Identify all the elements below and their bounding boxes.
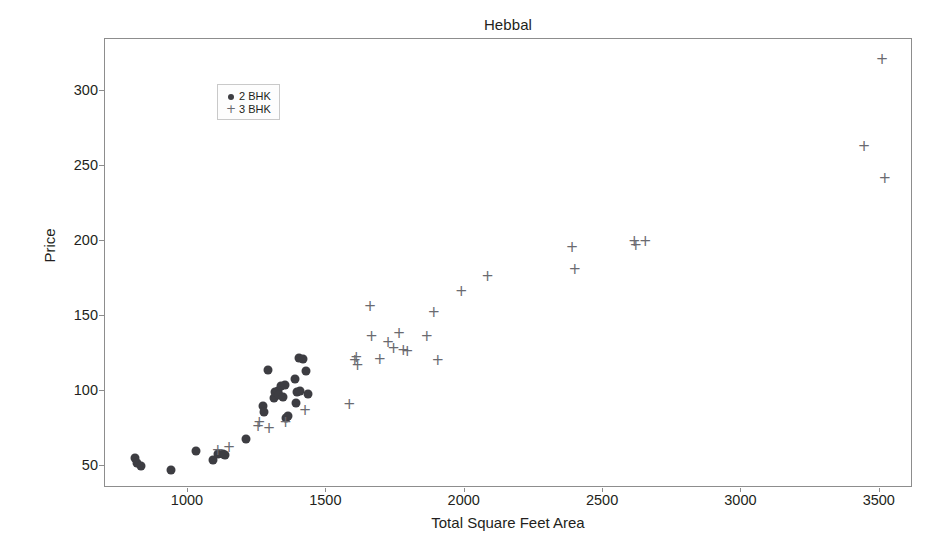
data-point-3bhk bbox=[279, 418, 290, 429]
x-axis-label: Total Square Feet Area bbox=[104, 514, 912, 531]
y-tick-mark bbox=[99, 465, 104, 466]
data-point-2bhk bbox=[298, 355, 307, 364]
data-point-2bhk bbox=[290, 374, 299, 383]
data-point-2bhk bbox=[242, 434, 251, 443]
x-tick-label: 1500 bbox=[309, 492, 341, 508]
y-tick-mark bbox=[99, 390, 104, 391]
data-point-3bhk bbox=[569, 265, 580, 276]
legend-item-3bhk[interactable]: +3 BHK bbox=[223, 102, 271, 115]
legend-label: 3 BHK bbox=[239, 103, 271, 115]
data-point-3bhk bbox=[263, 424, 274, 435]
chart-title: Hebbal bbox=[104, 16, 912, 33]
y-tick-label: 300 bbox=[58, 82, 98, 98]
y-tick-label: 150 bbox=[58, 307, 98, 323]
y-axis-label: Price bbox=[41, 186, 58, 306]
data-point-3bhk bbox=[878, 174, 889, 185]
y-tick-mark bbox=[99, 315, 104, 316]
data-point-3bhk bbox=[223, 444, 234, 455]
x-tick-label: 2000 bbox=[448, 492, 480, 508]
data-point-3bhk bbox=[432, 357, 443, 368]
data-point-3bhk bbox=[373, 355, 384, 366]
plot-frame: 2 BHK+3 BHK bbox=[104, 38, 912, 487]
y-tick-label: 250 bbox=[58, 157, 98, 173]
chart-legend: 2 BHK+3 BHK bbox=[217, 84, 280, 120]
data-point-2bhk bbox=[192, 446, 201, 455]
data-point-2bhk bbox=[280, 380, 289, 389]
chart-root: Hebbal 2 BHK+3 BHK Total Square Feet Are… bbox=[0, 0, 945, 559]
data-point-3bhk bbox=[455, 288, 466, 299]
data-point-2bhk bbox=[264, 365, 273, 374]
legend-circle-icon bbox=[223, 90, 239, 102]
y-tick-label: 100 bbox=[58, 382, 98, 398]
data-point-2bhk bbox=[136, 461, 145, 470]
x-tick-label: 1000 bbox=[171, 492, 203, 508]
legend-plus-icon: + bbox=[223, 103, 239, 115]
data-point-3bhk bbox=[858, 143, 869, 154]
x-tick-label: 2500 bbox=[586, 492, 618, 508]
data-point-3bhk bbox=[420, 333, 431, 344]
y-tick-label: 50 bbox=[58, 457, 98, 473]
data-point-3bhk bbox=[427, 309, 438, 320]
legend-item-2bhk[interactable]: 2 BHK bbox=[223, 89, 271, 102]
data-point-2bhk bbox=[167, 466, 176, 475]
data-point-3bhk bbox=[364, 303, 375, 314]
data-point-3bhk bbox=[299, 406, 310, 417]
data-point-3bhk bbox=[481, 273, 492, 284]
x-tick-label: 3000 bbox=[724, 492, 756, 508]
data-point-3bhk bbox=[639, 237, 650, 248]
data-point-3bhk bbox=[365, 333, 376, 344]
data-point-3bhk bbox=[566, 243, 577, 254]
data-point-3bhk bbox=[351, 361, 362, 372]
data-point-3bhk bbox=[393, 330, 404, 341]
data-point-2bhk bbox=[301, 367, 310, 376]
data-point-3bhk bbox=[343, 400, 354, 411]
y-tick-label: 200 bbox=[58, 232, 98, 248]
data-point-2bhk bbox=[304, 389, 313, 398]
legend-label: 2 BHK bbox=[239, 90, 271, 102]
data-point-2bhk bbox=[279, 392, 288, 401]
data-point-3bhk bbox=[401, 348, 412, 359]
y-tick-mark bbox=[99, 90, 104, 91]
x-tick-label: 3500 bbox=[863, 492, 895, 508]
y-tick-mark bbox=[99, 240, 104, 241]
y-tick-mark bbox=[99, 165, 104, 166]
data-point-3bhk bbox=[876, 56, 887, 67]
data-point-3bhk bbox=[212, 447, 223, 458]
